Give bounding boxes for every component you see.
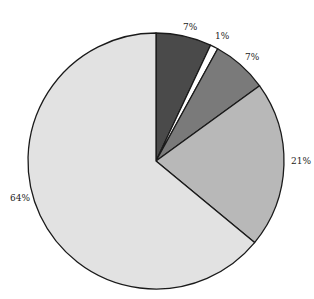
label-slice-21pct: 21% <box>291 156 311 166</box>
label-slice-7pct-b: 7% <box>245 52 260 62</box>
pie-slices <box>28 33 284 289</box>
pie-chart: 7% 1% 7% 21% 64% <box>0 0 314 299</box>
label-slice-7pct-a: 7% <box>183 22 198 32</box>
label-slice-64pct: 64% <box>10 193 30 203</box>
label-slice-1pct: 1% <box>215 31 230 41</box>
